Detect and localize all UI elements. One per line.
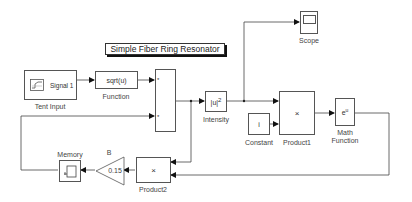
math-function-expr: eu [342,107,349,116]
scope-screen-icon [303,15,316,24]
tent-input-block[interactable]: Signal 1 [24,70,77,100]
constant-value: i [258,121,260,128]
intensity-block[interactable]: |u|2 [205,91,227,112]
product1-block[interactable]: × [279,91,315,135]
function-label: Function [103,93,130,101]
gain-value: 0.15 [108,167,122,175]
product1-label: Product1 [283,139,311,147]
memory-block[interactable] [59,160,81,182]
multiply-icon: × [295,109,300,118]
math-function-label-1: Math [337,129,353,137]
memory-icon [63,165,77,178]
model-title: Simple Fiber Ring Resonator [105,43,225,55]
product-port1: * [157,77,159,83]
memory-label: Memory [57,151,82,159]
constant-block[interactable]: i [248,113,270,135]
math-function-label-2: Function [332,137,359,145]
simulink-canvas[interactable]: Simple Fiber Ring Resonator Signal 1 Ten… [0,0,412,202]
tent-input-label: Tent Input [35,103,66,111]
product2-block[interactable]: × [136,157,171,183]
constant-label: Constant [245,139,273,147]
multiply-icon: × [151,166,156,175]
signal-name: Signal 1 [50,82,74,89]
gain-label: B [107,149,112,157]
product2-label: Product2 [139,186,167,194]
scope-block[interactable] [300,11,318,34]
product-port2: * [157,114,159,120]
function-block[interactable]: sqrt(u) [95,71,138,89]
function-expr: sqrt(u) [106,77,126,84]
signal-builder-icon [30,79,44,91]
scope-label: Scope [299,37,319,45]
intensity-label: Intensity [203,116,229,124]
math-function-block[interactable]: eu [335,98,355,126]
intensity-expr: |u|2 [211,97,222,106]
